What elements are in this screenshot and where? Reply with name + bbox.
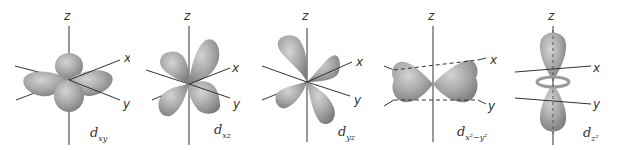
axis-z-label: z xyxy=(301,9,309,23)
orbital-dx2-y2: z x y dx²−y² xyxy=(380,0,510,150)
lobe-left xyxy=(392,62,433,102)
lobe-lower-right xyxy=(307,82,335,124)
lobe-upper-right xyxy=(189,39,219,84)
orbital-label: dyz xyxy=(338,124,355,142)
axis-z-label: z xyxy=(63,9,71,23)
orbital-label: dxz xyxy=(214,122,231,140)
lobe-lower-left xyxy=(158,84,189,116)
axis-x-label: x xyxy=(231,61,240,75)
lobe-lower-right xyxy=(189,81,220,114)
lobe-right xyxy=(433,60,478,102)
axis-x-label: x xyxy=(592,61,601,75)
lobe-upper-left xyxy=(278,35,307,82)
orbital-label: dz² xyxy=(583,125,599,143)
axis-z-label: z xyxy=(183,9,191,23)
axis-y-label: y xyxy=(122,97,130,111)
axis-x-label: x xyxy=(489,53,498,67)
axis-y-label: y xyxy=(592,97,601,111)
orbital-dxy: z x y dxy xyxy=(0,0,130,150)
orbital-dxz: z x y dxz xyxy=(130,0,250,150)
axis-y-label: y xyxy=(353,93,362,107)
axis-z-label: z xyxy=(427,9,435,23)
axis-y-label: y xyxy=(487,99,496,113)
orbital-label: dx²−y² xyxy=(457,124,487,142)
lobe-lower-left xyxy=(276,82,307,108)
lobe-front xyxy=(54,80,84,112)
axis-x-label: x xyxy=(123,51,130,65)
axis-x-label: x xyxy=(355,55,364,69)
axis-z-label: z xyxy=(547,9,555,23)
orbital-dyz: z x y dyz xyxy=(250,0,380,150)
orbital-dz2: z x y dz² xyxy=(505,0,620,150)
axis-y-label: y xyxy=(232,97,241,111)
lobe-upper-right xyxy=(307,55,340,82)
orbital-label: dxy xyxy=(90,125,107,143)
